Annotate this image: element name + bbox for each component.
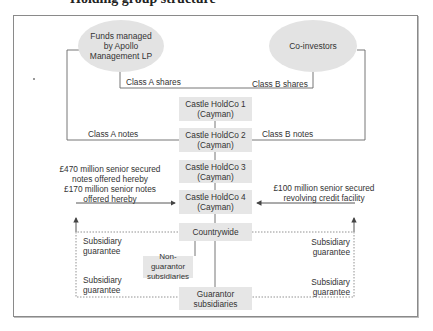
revolving-facility-label: £100 million senior secured revolving cr… <box>272 183 376 203</box>
subsidiary-guarantee-right-bottom: Subsidiary guarantee <box>300 277 350 297</box>
subsidiary-guarantee-right-top: Subsidiary guarantee <box>300 237 350 257</box>
apollo-funds-node: Funds managed by Apollo Management LP <box>78 20 164 72</box>
coinvestors-node: Co-investors <box>269 20 357 72</box>
castle-holdco-3-label: Castle HoldCo 3 (Cayman) <box>185 162 245 182</box>
guarantor-subsidiaries: Guarantor subsidiaries <box>179 287 252 310</box>
castle-holdco-4-label: Castle HoldCo 4 (Cayman) <box>185 192 245 212</box>
senior-notes-label: £470 million senior secured notes offere… <box>58 164 162 204</box>
castle-holdco-2-label: Castle HoldCo 2 (Cayman) <box>185 130 245 150</box>
castle-holdco-1-label: Castle HoldCo 1 (Cayman) <box>185 99 245 119</box>
countrywide-label: Countrywide <box>192 227 238 237</box>
non-guarantor-subsidiaries: Non-guarantor subsidiaries <box>143 256 193 278</box>
castle-holdco-2: Castle HoldCo 2 (Cayman) <box>179 128 252 152</box>
castle-holdco-1: Castle HoldCo 1 (Cayman) <box>179 97 252 121</box>
subsidiary-guarantee-left-bottom: Subsidiary guarantee <box>83 275 122 295</box>
subsidiary-guarantee-left-top: Subsidiary guarantee <box>83 236 122 256</box>
non-guarantor-label: Non-guarantor subsidiaries <box>143 252 193 282</box>
class-a-notes-label: Class A notes <box>88 129 138 139</box>
class-a-shares-label: Class A shares <box>126 77 181 87</box>
castle-holdco-4: Castle HoldCo 4 (Cayman) <box>179 190 252 214</box>
class-b-shares-label: Class B shares <box>252 79 308 89</box>
coinvestors-label: Co-investors <box>289 41 337 51</box>
class-b-notes-label: Class B notes <box>262 129 313 139</box>
guarantor-label: Guarantor subsidiaries <box>194 289 238 309</box>
countrywide: Countrywide <box>179 223 252 241</box>
apollo-funds-label: Funds managed by Apollo Management LP <box>90 31 152 61</box>
castle-holdco-3: Castle HoldCo 3 (Cayman) <box>179 160 252 183</box>
